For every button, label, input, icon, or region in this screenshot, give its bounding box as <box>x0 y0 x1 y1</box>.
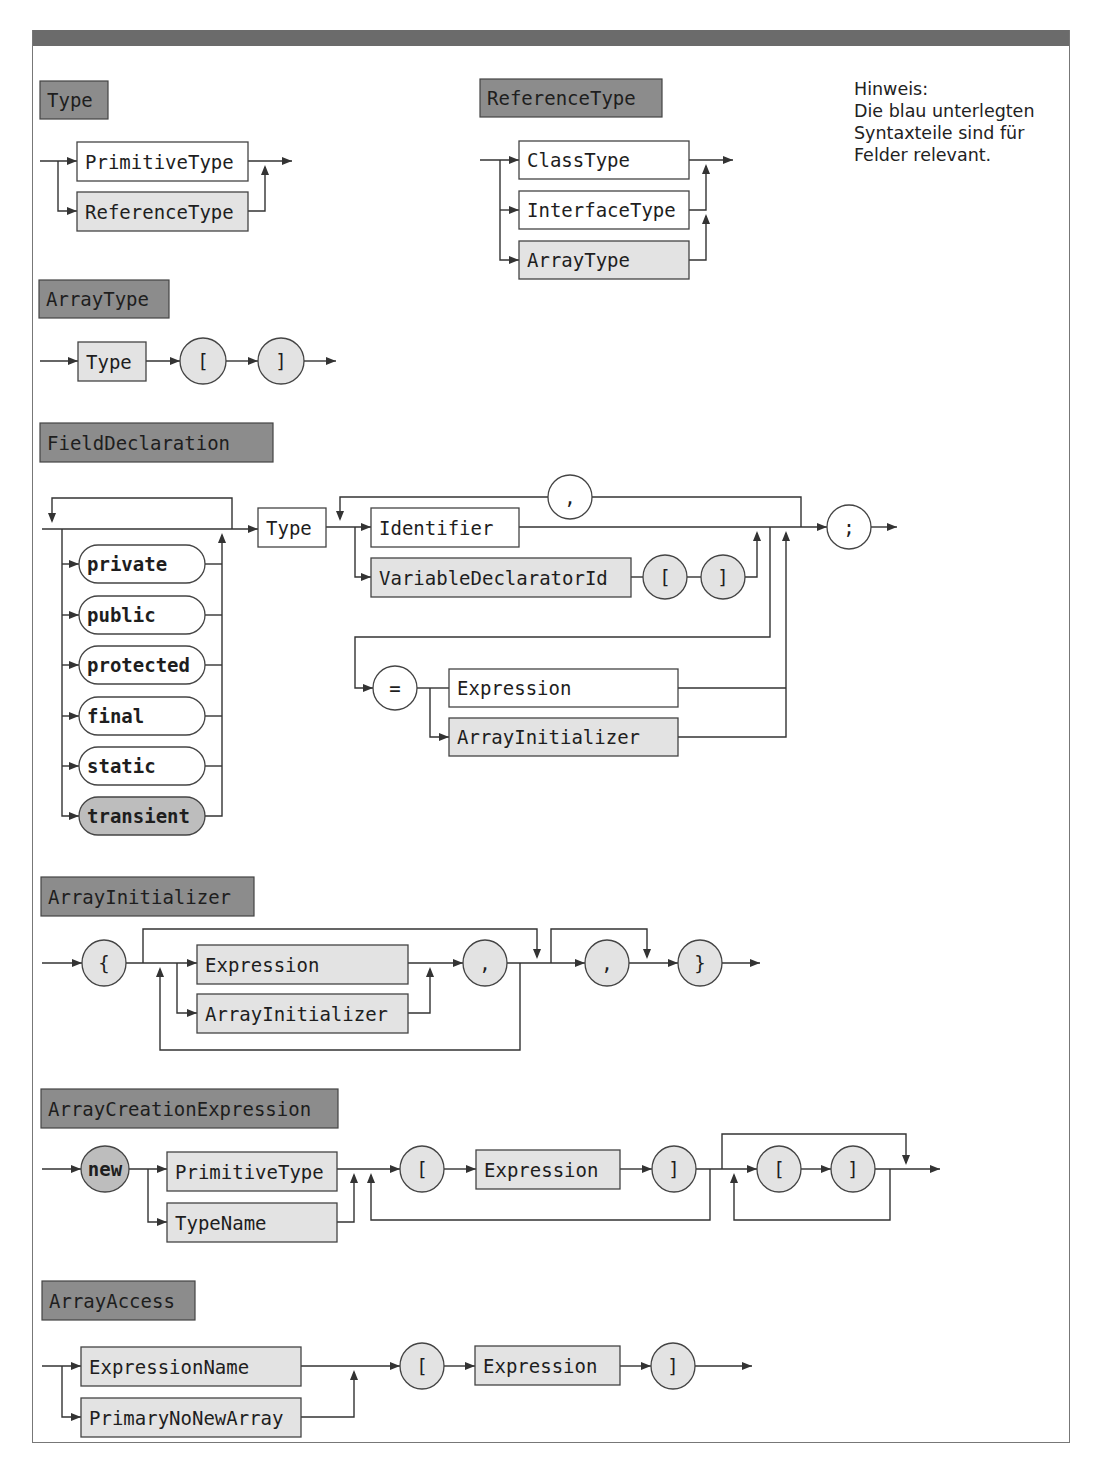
node-label: , <box>601 952 612 974</box>
arrow-head-icon <box>157 1165 167 1173</box>
node-label: ] <box>847 1158 858 1180</box>
terminal-comma: , <box>548 475 592 519</box>
section-title: ReferenceType <box>480 79 662 117</box>
arrow-head-icon <box>326 357 336 365</box>
section-type: TypePrimitiveTypeReferenceType <box>40 81 292 231</box>
arrow-head-icon <box>69 812 79 820</box>
node-label: [ <box>659 566 670 588</box>
section-title-label: ReferenceType <box>487 87 636 109</box>
node-label: public <box>87 604 156 626</box>
arrow-head-icon <box>439 733 449 741</box>
nonterminal-array-initializer: ArrayInitializer <box>449 718 678 756</box>
node-label: Type <box>86 351 132 373</box>
section-title-label: ArrayAccess <box>49 1290 175 1312</box>
arrow-head-icon <box>509 156 519 164</box>
connector-line <box>62 529 79 816</box>
node-label: = <box>389 677 400 699</box>
nonterminal-type: Type <box>78 342 146 381</box>
section-field-declaration: FieldDeclarationprivatepublicprotectedfi… <box>40 423 897 835</box>
arrow-head-icon <box>69 560 79 568</box>
section-title-label: FieldDeclaration <box>47 432 230 454</box>
nonterminal-type-name: TypeName <box>167 1203 337 1242</box>
nonterminal-expression: Expression <box>475 1346 620 1385</box>
terminal-open-bracket: [ <box>400 1343 444 1389</box>
nonterminal-variable-declarator-id: VariableDeclaratorId <box>371 558 631 597</box>
arrow-head-icon <box>69 661 79 669</box>
section-title: ArrayType <box>39 280 169 318</box>
terminal-close-brace: } <box>678 940 722 986</box>
arrow-head-icon <box>187 959 197 967</box>
nonterminal-expression: Expression <box>449 669 678 707</box>
arrow-head-icon <box>887 523 897 531</box>
section-array-type: ArrayTypeType[] <box>39 280 336 384</box>
arrow-head-icon <box>187 1009 197 1017</box>
node-label: ] <box>717 566 728 588</box>
arrow-head-icon <box>723 156 733 164</box>
terminal-close-bracket: ] <box>701 555 745 599</box>
node-label: final <box>87 705 144 727</box>
keyword-static: static <box>79 747 205 785</box>
section-array-creation-expression: ArrayCreationExpressionnewPrimitiveTypeT… <box>41 1089 940 1242</box>
arrow-head-icon <box>453 959 463 967</box>
nonterminal-type: Type <box>258 508 326 547</box>
node-label: InterfaceType <box>527 199 676 221</box>
keyword-protected: protected <box>79 646 205 684</box>
arrow-head-icon <box>643 949 651 959</box>
nonterminal-primitive-type: PrimitiveType <box>77 142 248 181</box>
terminal-open-bracket: [ <box>180 338 226 384</box>
node-label: ] <box>275 350 286 372</box>
node-label: Expression <box>205 954 319 976</box>
arrow-head-icon <box>71 1362 81 1370</box>
node-label: [ <box>416 1158 427 1180</box>
section-title: ArrayInitializer <box>41 877 254 916</box>
arrow-head-icon <box>68 357 78 365</box>
arrow-head-icon <box>361 523 371 531</box>
arrow-head-icon <box>156 967 164 977</box>
arrow-head-icon <box>71 1413 81 1421</box>
node-label: ReferenceType <box>85 201 234 223</box>
node-label: PrimitiveType <box>85 151 234 173</box>
section-array-initializer: ArrayInitializer{ExpressionArrayInitiali… <box>41 877 760 1050</box>
keyword-transient: transient <box>79 797 205 835</box>
node-label: ] <box>667 1355 678 1377</box>
arrow-head-icon <box>350 1370 358 1380</box>
node-label: { <box>98 952 109 974</box>
node-label: private <box>87 553 167 575</box>
node-label: Type <box>266 517 312 539</box>
section-reference-type: ReferenceTypeClassTypeInterfaceTypeArray… <box>480 79 733 279</box>
connector-line <box>62 1366 81 1417</box>
arrow-head-icon <box>336 511 344 521</box>
arrow-head-icon <box>67 207 77 215</box>
connector-line <box>177 963 197 1013</box>
terminal-open-brace: { <box>82 940 126 986</box>
section-title: Type <box>40 81 108 119</box>
node-label: } <box>694 952 705 974</box>
node-label: TypeName <box>175 1212 267 1234</box>
terminal-comma: , <box>585 940 629 986</box>
nonterminal-interface-type: InterfaceType <box>519 191 689 229</box>
node-label: [ <box>416 1355 427 1377</box>
node-label: , <box>479 952 490 974</box>
terminal-close-bracket: ] <box>258 338 304 384</box>
connector-line <box>52 498 232 529</box>
arrow-head-icon <box>363 684 373 692</box>
arrow-head-icon <box>668 959 678 967</box>
nonterminal-array-initializer: ArrayInitializer <box>197 994 408 1033</box>
terminal-open-bracket: [ <box>757 1146 801 1192</box>
node-label: Expression <box>484 1159 598 1181</box>
node-label: ArrayType <box>527 249 630 271</box>
arrow-head-icon <box>69 762 79 770</box>
arrow-head-icon <box>157 1218 167 1226</box>
arrow-head-icon <box>69 611 79 619</box>
nonterminal-array-type: ArrayType <box>519 241 689 279</box>
section-title-label: ArrayType <box>46 288 149 310</box>
node-label: Expression <box>457 677 571 699</box>
nonterminal-expression-name: ExpressionName <box>81 1347 301 1386</box>
connector-line <box>58 161 77 211</box>
section-array-access: ArrayAccessExpressionNamePrimaryNoNewArr… <box>42 1281 752 1437</box>
terminal-equals: = <box>373 666 417 710</box>
arrow-head-icon <box>509 256 519 264</box>
node-label: new <box>88 1158 123 1180</box>
arrow-head-icon <box>465 1362 475 1370</box>
arrow-head-icon <box>390 1165 400 1173</box>
